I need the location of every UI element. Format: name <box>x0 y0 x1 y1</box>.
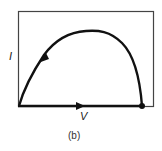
endpoint-dot <box>139 103 145 109</box>
arrow-right-icon <box>76 102 85 110</box>
iv-diagram-svg <box>0 0 162 151</box>
y-axis-label: I <box>9 51 12 62</box>
iv-diagram: I V (b) <box>0 0 162 151</box>
x-axis-label: V <box>80 111 87 122</box>
figure-caption: (b) <box>68 131 80 141</box>
arch-curve <box>19 31 142 106</box>
